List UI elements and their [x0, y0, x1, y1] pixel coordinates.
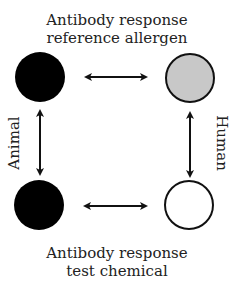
- top-label-line2: reference allergen: [47, 29, 188, 47]
- bottom-label-line1: Antibody response: [45, 244, 188, 262]
- node-human-test: [165, 181, 213, 229]
- bottom-label-line2: test chemical: [66, 262, 168, 280]
- diagram-canvas: Antibody response reference allergen Ani…: [0, 0, 233, 291]
- node-animal-test: [14, 180, 64, 230]
- left-label-animal: Animal: [5, 116, 23, 170]
- right-label-human: Human: [213, 115, 231, 171]
- node-animal-reference: [15, 52, 65, 102]
- node-human-reference: [166, 54, 214, 102]
- top-label-line1: Antibody response: [45, 11, 188, 29]
